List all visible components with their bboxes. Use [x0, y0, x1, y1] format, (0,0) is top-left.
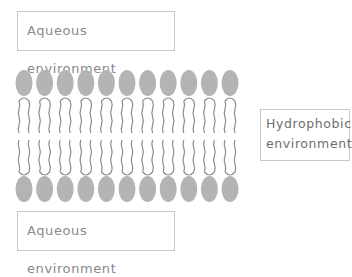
phosphate-head-icon: [98, 70, 115, 96]
glycerol-link-icon: [101, 98, 111, 101]
fatty-acid-tail-icon: [121, 101, 123, 133]
glycerol-link-icon: [225, 172, 235, 175]
glycerol-link-icon: [81, 98, 91, 101]
bottom-phospholipid: [16, 140, 33, 202]
fatty-acid-tail-icon: [59, 140, 61, 172]
fatty-acid-tail-icon: [214, 140, 216, 172]
fatty-acid-tail-icon: [101, 140, 103, 172]
top-phospholipid: [36, 70, 53, 133]
top-phospholipid: [16, 70, 33, 133]
fatty-acid-tail-icon: [69, 101, 71, 133]
fatty-acid-tail-icon: [18, 140, 20, 172]
top-phospholipid: [180, 70, 197, 133]
glycerol-link-icon: [122, 98, 132, 101]
fatty-acid-tail-icon: [39, 101, 41, 133]
fatty-acid-tail-icon: [39, 140, 41, 172]
fatty-acid-tail-icon: [204, 101, 206, 133]
bottom-phospholipid: [160, 140, 177, 202]
phosphate-head-icon: [222, 176, 239, 202]
fatty-acid-tail-icon: [80, 140, 82, 172]
phosphate-head-icon: [77, 70, 94, 96]
phosphate-head-icon: [201, 176, 218, 202]
glycerol-link-icon: [60, 98, 70, 101]
phosphate-head-icon: [77, 176, 94, 202]
fatty-acid-tail-icon: [234, 101, 236, 133]
phosphate-head-icon: [16, 70, 33, 96]
glycerol-link-icon: [184, 172, 194, 175]
glycerol-link-icon: [225, 98, 235, 101]
fatty-acid-tail-icon: [121, 140, 123, 172]
fatty-acid-tail-icon: [28, 140, 30, 172]
fatty-acid-tail-icon: [214, 101, 216, 133]
hydrophobic-label: Hydrophobic environment: [260, 109, 350, 161]
glycerol-link-icon: [81, 172, 91, 175]
phosphate-head-icon: [160, 70, 177, 96]
bottom-phospholipid: [201, 140, 218, 202]
glycerol-link-icon: [204, 172, 214, 175]
fatty-acid-tail-icon: [142, 101, 144, 133]
top-phospholipid: [77, 70, 94, 133]
glycerol-link-icon: [163, 172, 173, 175]
phosphate-head-icon: [16, 176, 33, 202]
fatty-acid-tail-icon: [204, 140, 206, 172]
glycerol-link-icon: [163, 98, 173, 101]
bottom-aqueous-label: Aqueous environment: [17, 211, 175, 251]
phosphate-head-icon: [160, 176, 177, 202]
bottom-phospholipid: [119, 140, 136, 202]
glycerol-link-icon: [60, 172, 70, 175]
fatty-acid-tail-icon: [28, 101, 30, 133]
top-phospholipid: [139, 70, 156, 133]
phosphate-head-icon: [119, 176, 136, 202]
hydrophobic-text-line1: Hydrophobic: [266, 114, 349, 134]
top-phospholipid: [201, 70, 218, 133]
phosphate-head-icon: [119, 70, 136, 96]
fatty-acid-tail-icon: [183, 140, 185, 172]
fatty-acid-tail-icon: [234, 140, 236, 172]
phosphate-head-icon: [180, 70, 197, 96]
glycerol-link-icon: [143, 98, 153, 101]
glycerol-link-icon: [19, 98, 29, 101]
top-phospholipid: [222, 70, 239, 133]
phosphate-head-icon: [222, 70, 239, 96]
bottom-phospholipid: [57, 140, 74, 202]
fatty-acid-tail-icon: [162, 101, 164, 133]
glycerol-link-icon: [122, 172, 132, 175]
top-phospholipid: [57, 70, 74, 133]
top-phospholipid: [160, 70, 177, 133]
fatty-acid-tail-icon: [131, 140, 133, 172]
fatty-acid-tail-icon: [90, 101, 92, 133]
fatty-acid-tail-icon: [101, 101, 103, 133]
fatty-acid-tail-icon: [142, 140, 144, 172]
bottom-phospholipid: [98, 140, 115, 202]
fatty-acid-tail-icon: [162, 140, 164, 172]
phosphate-head-icon: [139, 176, 156, 202]
bottom-phospholipid: [36, 140, 53, 202]
phosphate-head-icon: [201, 70, 218, 96]
fatty-acid-tail-icon: [193, 101, 195, 133]
fatty-acid-tail-icon: [90, 140, 92, 172]
fatty-acid-tail-icon: [131, 101, 133, 133]
glycerol-link-icon: [40, 98, 50, 101]
glycerol-link-icon: [204, 98, 214, 101]
phosphate-head-icon: [98, 176, 115, 202]
phosphate-head-icon: [57, 70, 74, 96]
phosphate-head-icon: [36, 176, 53, 202]
bottom-aqueous-text: Aqueous environment: [27, 223, 116, 276]
fatty-acid-tail-icon: [172, 140, 174, 172]
phosphate-head-icon: [57, 176, 74, 202]
fatty-acid-tail-icon: [152, 140, 154, 172]
fatty-acid-tail-icon: [69, 140, 71, 172]
phosphate-head-icon: [36, 70, 53, 96]
bottom-phospholipid: [77, 140, 94, 202]
fatty-acid-tail-icon: [80, 101, 82, 133]
fatty-acid-tail-icon: [111, 101, 113, 133]
fatty-acid-tail-icon: [224, 140, 226, 172]
glycerol-link-icon: [40, 172, 50, 175]
fatty-acid-tail-icon: [59, 101, 61, 133]
bottom-phospholipid: [180, 140, 197, 202]
top-phospholipid: [98, 70, 115, 133]
hydrophobic-text-line2: environment: [266, 134, 349, 154]
fatty-acid-tail-icon: [49, 140, 51, 172]
glycerol-link-icon: [19, 172, 29, 175]
fatty-acid-tail-icon: [224, 101, 226, 133]
